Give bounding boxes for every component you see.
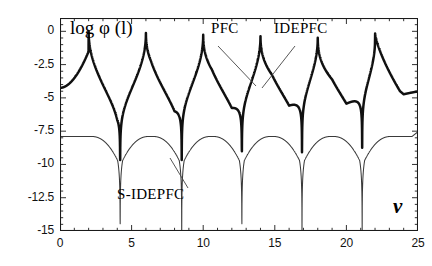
y-tick-label: -5	[44, 90, 54, 104]
y-tick-label: -10	[37, 156, 54, 170]
annotation-pfc: PFC	[211, 20, 239, 37]
plot-background	[60, 18, 418, 231]
x-tick-label: 25	[409, 236, 427, 250]
chart-svg	[60, 18, 418, 231]
y-axis-title: log φ (l)	[70, 17, 133, 39]
x-axis-title: v	[393, 194, 402, 219]
annotation-idepfc: IDEPFC	[274, 20, 327, 37]
annotation-s-idepfc: S-IDEPFC	[117, 186, 184, 203]
x-tick-label: 15	[266, 236, 284, 250]
y-tick-label: -15	[37, 223, 54, 237]
x-tick-label: 10	[194, 236, 212, 250]
x-tick-label: 0	[51, 236, 69, 250]
y-tick-label: 0	[48, 23, 54, 37]
y-tick-label: -7.5	[34, 123, 54, 137]
x-tick-label: 20	[337, 236, 355, 250]
plot-area	[60, 18, 418, 231]
y-tick-label: -12.5	[28, 190, 54, 204]
y-tick-label: -2.5	[34, 57, 54, 71]
figure-container: 0-2.5-5-7.5-10-12.5-15 0510152025 log φ …	[0, 0, 432, 266]
x-tick-label: 5	[123, 236, 141, 250]
